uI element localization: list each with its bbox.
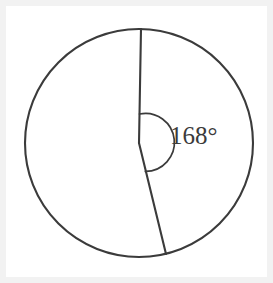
figure-frame: 168° [0, 0, 273, 283]
circle-angle-diagram: 168° [0, 0, 273, 283]
upper-radius-line [139, 29, 141, 143]
lower-radius-line [139, 143, 166, 254]
angle-measure-label: 168° [170, 122, 218, 149]
